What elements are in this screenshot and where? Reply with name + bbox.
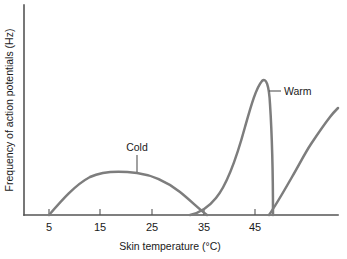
x-tick-label-15: 15 <box>94 221 106 233</box>
x-tick-label-45: 45 <box>249 221 261 233</box>
x-tick-label-25: 25 <box>146 221 158 233</box>
x-tick-label-35: 35 <box>198 221 210 233</box>
y-axis-title: Frequency of action potentials (Hz) <box>3 29 15 192</box>
x-axis-title: Skin temperature (°C) <box>119 240 221 252</box>
line-chart-plot: 5 15 25 35 45 Skin temperature (°C) Freq… <box>0 0 347 259</box>
cold-curve-label: Cold <box>126 141 148 153</box>
x-tick-label-5: 5 <box>46 221 52 233</box>
warm-curve-label: Warm <box>284 85 312 97</box>
chart-figure: 5 15 25 35 45 Skin temperature (°C) Freq… <box>0 0 347 259</box>
